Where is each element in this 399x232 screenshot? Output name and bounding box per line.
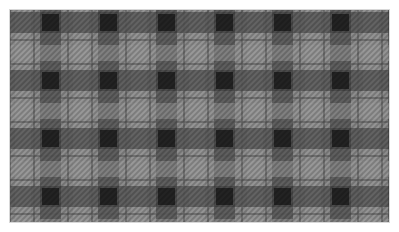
plaid-pattern	[10, 10, 389, 222]
plaid-image	[10, 10, 389, 222]
